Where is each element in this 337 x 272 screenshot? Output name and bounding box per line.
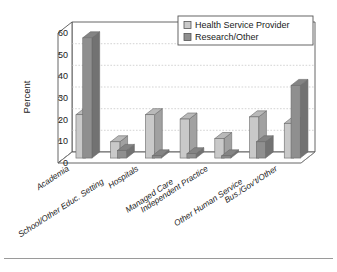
legend: Health Service Provider Research/Other [178, 16, 313, 45]
bar-front-face [145, 115, 154, 158]
bar-front-face [222, 156, 231, 158]
y-tick-label-30: 30 [58, 93, 68, 103]
chart-figure: 0 10 20 30 40 50 60 Percent AcademiaScho… [0, 0, 337, 272]
footer-rule [4, 258, 333, 259]
x-tick-label-1: School/Other Educ. Setting [16, 176, 106, 239]
bar-front-face [187, 154, 196, 158]
grouped-bar-chart-3d: 0 10 20 30 40 50 60 Percent AcademiaScho… [0, 0, 337, 272]
y-tick-label-50: 50 [58, 50, 68, 60]
bar-front-face [152, 156, 161, 158]
x-tick-label-2: Hospitals [106, 163, 140, 190]
y-axis-title: Percent [21, 80, 32, 113]
x-tick-label-0: Academia [34, 163, 72, 192]
y-tick-label-20: 20 [58, 115, 68, 125]
category-labels: AcademiaSchool/Other Educ. SettingHospit… [16, 163, 280, 240]
y-tick-label-60: 60 [58, 28, 68, 38]
legend-swatch-health-service-provider [184, 22, 191, 29]
legend-label-health-service-provider: Health Service Provider [195, 20, 290, 30]
bar-front-face [291, 85, 300, 158]
bar-front-face [256, 142, 265, 158]
bar-front-face [180, 119, 189, 158]
bar-side-face [92, 32, 100, 158]
bar-side-face [300, 79, 308, 158]
legend-swatch-research-other [184, 34, 191, 41]
bar-academia-research-other [83, 32, 100, 158]
y-tick-label-10: 10 [58, 136, 68, 146]
bar-front-face [117, 150, 126, 158]
y-tick-label-40: 40 [58, 71, 68, 81]
bar-bus-gov-t-other-research-other [291, 79, 308, 158]
legend-label-research-other: Research/Other [195, 32, 259, 42]
bar-front-face [83, 38, 92, 158]
